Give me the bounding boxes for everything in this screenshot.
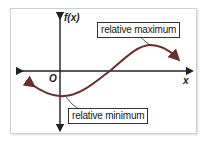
origin-label: O xyxy=(49,73,57,84)
relative-maximum-label: relative maximum xyxy=(97,22,180,38)
y-axis-label: f(x) xyxy=(64,12,80,23)
x-axis-label: x xyxy=(183,75,189,86)
relative-minimum-label: relative minimum xyxy=(68,108,148,124)
